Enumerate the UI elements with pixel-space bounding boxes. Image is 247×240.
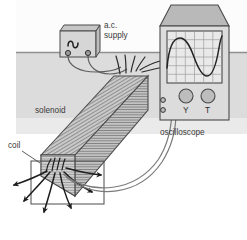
knob-y[interactable] — [179, 89, 193, 103]
knob-t-label: T — [205, 105, 210, 115]
oscilloscope-hood — [160, 5, 229, 26]
ac-supply-terminal-left[interactable] — [65, 50, 70, 55]
knob-y-label: Y — [183, 105, 189, 115]
oscilloscope[interactable]: Y T oscilloscope — [160, 5, 229, 137]
physics-diagram: a.c. supply solenoid coil — [0, 0, 247, 240]
ac-supply-side-face — [96, 25, 100, 57]
oscilloscope-terminal-bottom[interactable] — [161, 108, 166, 113]
ac-supply-label-line1: a.c. — [104, 21, 117, 30]
ac-supply-terminal-right[interactable] — [85, 50, 90, 55]
oscilloscope-terminal-top[interactable] — [161, 98, 166, 103]
ac-supply-label-line2: supply — [104, 31, 129, 40]
diagram-canvas: a.c. supply solenoid coil — [0, 0, 247, 240]
solenoid-label: solenoid — [35, 106, 66, 115]
oscilloscope-label: oscilloscope — [160, 128, 205, 137]
coil-label: coil — [8, 141, 20, 150]
knob-t[interactable] — [201, 89, 215, 103]
ac-supply-top-face — [60, 25, 100, 31]
